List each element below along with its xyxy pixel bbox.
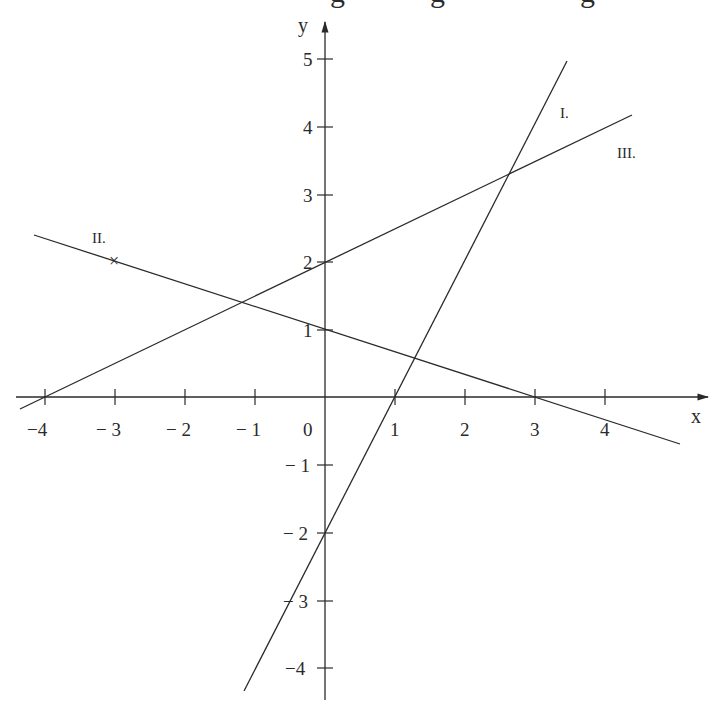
svg-text:−4: −4 xyxy=(285,658,306,679)
coordinate-plot: g g g x y −4 − 3 − 2 − 1 0 1 2 3 4 xyxy=(0,0,725,717)
svg-text:− 1: − 1 xyxy=(236,419,261,440)
svg-text:g: g xyxy=(430,0,445,8)
y-axis-label: y xyxy=(298,14,308,37)
svg-text:5: 5 xyxy=(303,49,313,70)
cropped-heading-fragment: g g g xyxy=(330,0,595,8)
svg-text:− 1: − 1 xyxy=(285,455,310,476)
line-iii-label: III. xyxy=(617,145,636,161)
line-ii-label: II. xyxy=(92,230,106,246)
svg-text:− 2: − 2 xyxy=(166,419,191,440)
svg-text:− 3: − 3 xyxy=(96,419,121,440)
line-i xyxy=(244,61,567,691)
x-axis-label: x xyxy=(691,405,701,427)
svg-text:2: 2 xyxy=(460,419,470,440)
svg-text:3: 3 xyxy=(530,419,540,440)
svg-text:4: 4 xyxy=(303,117,313,138)
svg-text:g: g xyxy=(580,0,595,8)
svg-text:1: 1 xyxy=(390,419,400,440)
line-i-label: I. xyxy=(560,105,569,121)
svg-text:−4: −4 xyxy=(27,419,48,440)
svg-text:− 2: − 2 xyxy=(283,523,308,544)
line-ii xyxy=(34,235,680,444)
svg-text:3: 3 xyxy=(303,185,313,206)
svg-text:g: g xyxy=(330,0,345,8)
point-marker-icon: × xyxy=(109,251,119,271)
svg-text:4: 4 xyxy=(600,419,610,440)
origin-label: 0 xyxy=(303,419,313,440)
x-tick-labels: −4 − 3 − 2 − 1 0 1 2 3 4 xyxy=(27,419,610,440)
